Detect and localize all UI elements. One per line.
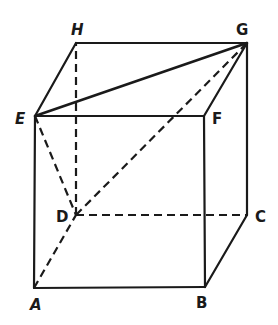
edge-bf: [204, 116, 205, 287]
edge-ad-dashed: [34, 215, 76, 288]
diagonal-ed-dashed: [35, 116, 76, 215]
vertex-label-c: C: [255, 208, 266, 226]
edge-cb: [205, 215, 247, 287]
vertex-label-f: F: [212, 110, 222, 128]
vertex-label-d: D: [56, 208, 68, 226]
vertex-label-a: A: [29, 296, 42, 314]
edge-gf: [204, 43, 247, 116]
vertex-label-b: B: [196, 294, 207, 312]
cube-diagram: H G E F D C A B: [0, 0, 278, 325]
vertex-label-g: G: [236, 21, 248, 39]
edge-ea: [34, 116, 35, 288]
vertex-label-h: H: [71, 21, 84, 39]
vertex-label-e: E: [15, 110, 26, 128]
diagonal-dg-dashed: [76, 43, 247, 215]
edge-ab: [34, 287, 205, 288]
diagonal-eg: [35, 43, 247, 116]
